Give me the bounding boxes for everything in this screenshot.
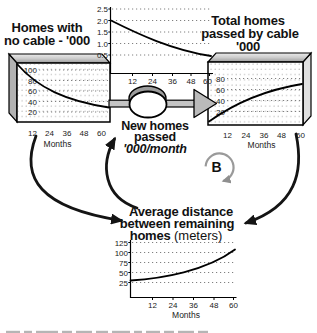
left-stock-top-face	[9, 54, 110, 63]
flow-rate-chart: 2.5 2.0 1.5 1.0 0.5 12 24 36 48 60	[97, 5, 213, 86]
left-stock-title-line2: no cable - '000	[4, 33, 90, 48]
flow-units-label: '000/month	[123, 142, 187, 156]
y-tick-label: 25	[119, 279, 128, 288]
y-tick-label: 75	[119, 259, 128, 268]
y-tick-label: 2.5	[97, 5, 109, 14]
average-distance-chart: 125 100 75 50 25 12 24 36 48 60 Months	[115, 239, 239, 321]
x-axis-label: Months	[248, 140, 276, 150]
y-tick-label: 60	[28, 87, 37, 96]
x-axis-label: Months	[44, 139, 72, 149]
y-tick-label: 0.5	[97, 51, 109, 60]
loop-label: B	[211, 159, 221, 175]
y-tick-label: 125	[115, 239, 129, 248]
x-tick-label: 24	[148, 77, 157, 86]
x-tick-label: 12	[128, 77, 137, 86]
y-tick-label: 40	[216, 97, 225, 106]
flow-pipe: New homes passed '000/month	[109, 86, 217, 156]
y-tick-label: 1.0	[97, 40, 109, 49]
right-stock: 80 60 40 20 12 24 36 48 60 Months Total …	[201, 13, 311, 150]
x-tick-label: 36	[189, 301, 198, 310]
x-axis-label: Months	[172, 310, 200, 320]
x-tick-label: 12	[223, 131, 232, 140]
x-tick-label: 60	[97, 129, 106, 138]
x-tick-label: 48	[187, 77, 196, 86]
y-tick-label: 100	[115, 249, 129, 258]
axes	[131, 240, 237, 298]
stock-flow-diagram: 100 80 60 40 20 12 24 36 48 60 Months Ho…	[0, 0, 317, 333]
right-stock-top-face	[208, 53, 311, 62]
y-tick-label: 40	[28, 98, 37, 107]
diagram-canvas: 100 80 60 40 20 12 24 36 48 60 Months Ho…	[0, 0, 317, 333]
x-tick-label: 48	[277, 131, 286, 140]
aux-units-label: (meters)	[174, 228, 222, 243]
left-stock: 100 80 60 40 20 12 24 36 48 60 Months Ho…	[4, 20, 110, 149]
y-tick-label: 60	[216, 86, 225, 95]
left-stock-side-face	[9, 54, 17, 122]
x-tick-label: 60	[229, 301, 238, 310]
average-distance-curve	[131, 250, 236, 281]
aux-label-line3: homes (meters)	[130, 228, 223, 243]
x-tick-label: 48	[210, 301, 219, 310]
y-tick-label: 1.5	[97, 28, 109, 37]
right-stock-title-line3: '000	[236, 39, 260, 54]
x-tick-label: 12	[148, 301, 157, 310]
x-tick-label: 36	[63, 129, 72, 138]
x-tick-label: 60	[203, 77, 212, 86]
x-tick-label: 48	[80, 129, 89, 138]
new-homes-rate-curve	[111, 21, 211, 57]
x-tick-label: 24	[169, 301, 178, 310]
right-stock-side-face	[303, 53, 311, 125]
valve-icon	[130, 92, 167, 118]
loop-b-marker: B	[206, 153, 234, 181]
y-tick-label: 50	[119, 269, 128, 278]
y-tick-label: 2.0	[97, 17, 109, 26]
x-tick-label: 36	[260, 131, 269, 140]
aux-label-homes: homes	[130, 228, 174, 243]
axes	[111, 7, 214, 74]
x-tick-label: 36	[168, 77, 177, 86]
y-tick-label: 80	[216, 75, 225, 84]
x-tick-label: 24	[242, 131, 251, 140]
y-tick-label: 20	[28, 108, 37, 117]
x-tick-label: 24	[45, 129, 54, 138]
